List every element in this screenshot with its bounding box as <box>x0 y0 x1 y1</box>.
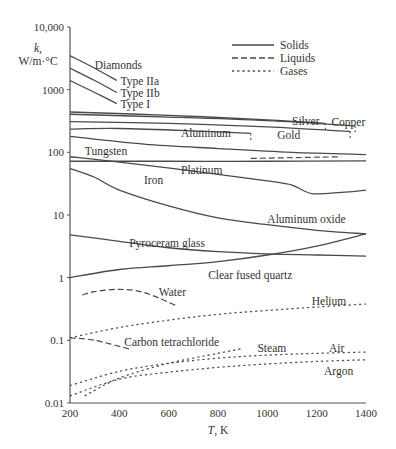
curve-label-type-i: Type I <box>121 98 151 111</box>
x-axis-label: T, K <box>208 424 229 437</box>
series-line-type-iib <box>70 68 117 92</box>
x-tick-labels: 200400600800100012001400 <box>62 407 378 419</box>
curve-label-air: Air <box>329 342 345 354</box>
y-tick-label: 10,000 <box>34 21 65 33</box>
series-line-steam <box>85 349 243 396</box>
series-line-type-i <box>70 81 117 104</box>
x-tick-label: 600 <box>160 407 177 419</box>
curve-label-gold: Gold <box>277 129 300 141</box>
curve-label-layer: Type IIaType IIbType ISilverCopperGoldAl… <box>85 59 366 378</box>
y-tick-label: 1000 <box>42 84 65 96</box>
curve-label-helium: Helium <box>312 295 347 307</box>
legend-label-liquids: Liquids <box>280 52 316 65</box>
legend-label-solids: Solids <box>280 39 309 51</box>
curve-label-aluminum-oxide: Aluminum oxide <box>267 213 345 225</box>
curve-label-pyroceram-glass: Pyroceram glass <box>129 237 205 250</box>
x-tick-label: 200 <box>62 407 79 419</box>
curve-label-platinum: Platinum <box>181 164 223 176</box>
y-tick-label: 10 <box>53 209 65 221</box>
curve-label-water: Water <box>159 286 186 298</box>
curve-label-clear-fused-quartz: Clear fused quartz <box>208 269 292 282</box>
x-tick-label: 1200 <box>306 407 329 419</box>
y-tick-label: 0.1 <box>50 334 64 346</box>
series-line-helium <box>70 304 366 338</box>
thermal-conductivity-chart: 0.010.1110100100010,000 2004006008001000… <box>0 0 396 449</box>
series-line-aluminum-liquid <box>251 157 342 159</box>
curve-label-steam: Steam <box>257 342 286 354</box>
series-line-argon <box>70 360 366 396</box>
x-tick-label: 1000 <box>256 407 279 419</box>
y-tick-label: 1 <box>59 272 65 284</box>
y-tick-labels: 0.010.1110100100010,000 <box>34 21 70 409</box>
curve-label-tungsten: Tungsten <box>85 145 128 158</box>
x-tick-label: 800 <box>210 407 227 419</box>
y-tick-label: 100 <box>48 146 65 158</box>
legend: SolidsLiquidsGases <box>232 39 316 77</box>
curve-label-silver: Silver <box>292 115 320 127</box>
curve-label-aluminum: Aluminum <box>181 127 231 139</box>
x-tick-label: 400 <box>111 407 128 419</box>
y-axis-label-symbol: k, <box>34 42 42 55</box>
series-line-pyroceram-glass <box>70 235 366 256</box>
group-label-diamonds: Diamonds <box>95 59 143 71</box>
y-axis-label-units: W/m·°C <box>18 55 57 67</box>
series-line-carbon-tetrachloride <box>70 338 129 349</box>
curve-label-iron: Iron <box>144 174 163 186</box>
x-tick-label: 1400 <box>355 407 378 419</box>
legend-label-gases: Gases <box>280 65 308 77</box>
curve-label-argon: Argon <box>324 365 353 378</box>
curve-label-carbon-tetrachloride: Carbon tetrachloride <box>124 336 219 348</box>
curve-label-copper: Copper <box>331 116 365 129</box>
